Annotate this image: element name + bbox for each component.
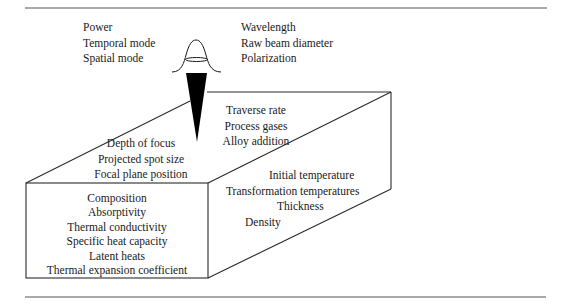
label-traverse-rate: Traverse rate <box>212 103 300 119</box>
material-properties-side: Initial temperature Transformation tempe… <box>226 168 386 230</box>
label-spatial-mode: Spatial mode <box>83 51 155 67</box>
gaussian-profile-icon <box>172 40 221 72</box>
process-parameters: Traverse rate Process gases Alloy additi… <box>212 103 300 150</box>
label-polarization: Polarization <box>241 51 333 67</box>
label-raw-beam-diameter: Raw beam diameter <box>241 36 333 52</box>
label-wavelength: Wavelength <box>241 20 333 36</box>
label-power: Power <box>83 20 155 36</box>
label-specific-heat-capacity: Specific heat capacity <box>26 234 208 248</box>
laser-beam-cone-icon <box>186 73 207 142</box>
label-latent-heats: Latent heats <box>26 249 208 263</box>
label-absorptivity: Absorptivity <box>26 205 208 219</box>
label-thermal-expansion-coefficient: Thermal expansion coefficient <box>26 263 208 277</box>
label-process-gases: Process gases <box>212 119 300 135</box>
label-alloy-addition: Alloy addition <box>212 134 300 150</box>
label-thermal-conductivity: Thermal conductivity <box>26 220 208 234</box>
focusing-parameters: Depth of focus Projected spot size Focal… <box>80 136 202 183</box>
label-density: Density <box>226 215 386 231</box>
beam-parameters-left: Power Temporal mode Spatial mode <box>83 20 155 67</box>
material-properties-front: Composition Absorptivity Thermal conduct… <box>26 191 208 277</box>
label-depth-of-focus: Depth of focus <box>80 136 202 152</box>
label-transformation-temperatures: Transformation temperatures <box>226 184 386 200</box>
label-projected-spot-size: Projected spot size <box>80 152 202 168</box>
beam-parameters-right: Wavelength Raw beam diameter Polarizatio… <box>241 20 333 67</box>
label-temporal-mode: Temporal mode <box>83 36 155 52</box>
label-composition: Composition <box>26 191 208 205</box>
label-thickness: Thickness <box>226 199 386 215</box>
label-focal-plane-position: Focal plane position <box>80 167 202 183</box>
label-initial-temperature: Initial temperature <box>226 168 386 184</box>
